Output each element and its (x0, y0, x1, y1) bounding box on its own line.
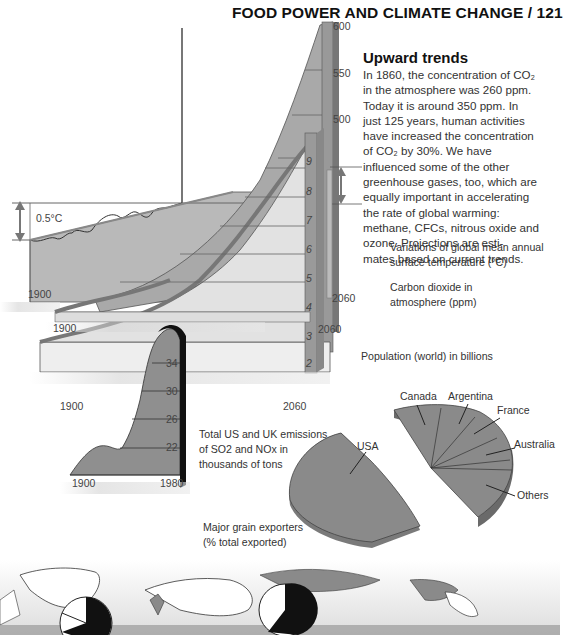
pie-label-usa: USA (357, 440, 379, 452)
co2-tick-600: 600 (333, 20, 351, 32)
pop-tick-7: 7 (306, 214, 312, 226)
legend-line: of SO2 and NOx in (199, 443, 288, 455)
emis-end-year: 1980 (160, 477, 183, 489)
body-line: Today it is around 350 ppm. In (363, 99, 518, 112)
pop-tick-5: 5 (306, 272, 312, 284)
pop-tick-9: 9 (306, 155, 312, 167)
legend-line: (% total exported) (203, 536, 287, 548)
pie-label-france: France (497, 404, 530, 416)
legend-grain: Major grain exporters (% total exported) (203, 520, 303, 550)
body-line: equally important in accelerating (363, 190, 529, 203)
emis-tick-22: 22 (166, 441, 178, 453)
body-line: have increased the concentration (363, 129, 534, 142)
body-line: the rate of global warming: (363, 206, 500, 219)
map-pie-right (259, 583, 318, 635)
pop-tick-2: 2 (306, 357, 312, 369)
legend-line: Total US and UK emissions (199, 428, 327, 440)
emis-start-year: 1900 (72, 477, 95, 489)
co2-tick-500: 500 (333, 113, 351, 125)
pop-end-year: 2060 (283, 400, 306, 412)
legend-line: thousands of tons (199, 458, 283, 470)
pie-label-argentina: Argentina (448, 390, 493, 402)
sidebar-title: Upward trends (363, 49, 559, 66)
pie-label-australia: Australia (514, 438, 555, 450)
legend-line: atmosphere (ppm) (390, 296, 477, 308)
temp-delta-label: 0.5°C (36, 212, 62, 224)
pop-tick-6: 6 (306, 243, 312, 255)
legend-line: surface temperature (°C) (390, 256, 507, 268)
emis-tick-30: 30 (166, 385, 178, 397)
legend-population: Population (world) in billions (361, 349, 493, 364)
world-map (0, 560, 560, 635)
temp-end-year: 2060 (332, 292, 355, 304)
body-line: greenhouse gases, too, which are (363, 175, 537, 188)
co2-end-year: 2060 (318, 323, 341, 335)
pie-label-canada: Canada (400, 390, 437, 402)
sidebar-body: In 1860, the concentration of CO₂ in the… (363, 67, 559, 266)
pop-tick-8: 8 (306, 185, 312, 197)
body-line: of CO₂ by 30%. We have (363, 144, 492, 157)
pie-label-others: Others (517, 489, 549, 501)
temp-start-year: 1900 (28, 288, 51, 300)
emis-tick-34: 34 (166, 357, 178, 369)
emis-tick-26: 26 (166, 413, 178, 425)
body-line: In 1860, the concentration of CO₂ (363, 68, 535, 81)
pop-tick-3: 3 (306, 330, 312, 342)
body-line: methane, CFCs, nitrous oxide and (363, 221, 539, 234)
body-line: influenced some of the other (363, 160, 509, 173)
legend-line: Major grain exporters (203, 521, 303, 533)
co2-tick-550: 550 (333, 67, 351, 79)
pop-start-year: 1900 (60, 400, 83, 412)
co2-start-year: 1900 (53, 322, 76, 334)
legend-emissions: Total US and UK emissions of SO2 and NOx… (199, 427, 327, 472)
running-head: FOOD POWER AND CLIMATE CHANGE / 121 (232, 4, 563, 22)
legend-line: Variations of global mean annual (390, 241, 544, 253)
body-line: in the atmosphere was 260 ppm. (363, 83, 531, 96)
sidebar-upward-trends: Upward trends In 1860, the concentration… (363, 49, 559, 266)
pop-tick-4: 4 (306, 301, 312, 313)
legend-temperature: Variations of global mean annual surface… (390, 240, 544, 270)
body-line: just 125 years, human activities (363, 114, 525, 127)
legend-line: Carbon dioxide in (390, 281, 472, 293)
legend-co2: Carbon dioxide in atmosphere (ppm) (390, 280, 477, 310)
